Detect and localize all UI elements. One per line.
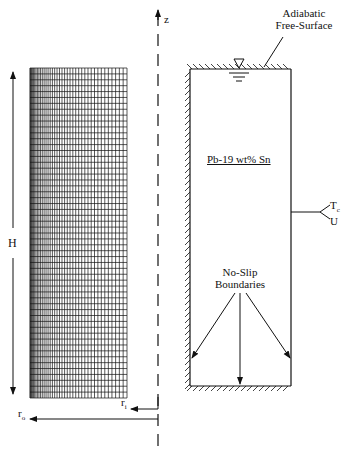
material-label: Pb-19 wt% Sn [207,153,271,165]
inner-radius-label: ri [121,396,127,413]
free-surface-leader [264,37,283,67]
adiabatic-text: Adiabatic [262,7,346,19]
outer-radius-label: ro [18,407,25,424]
cooling-temperature-subscript: c [337,206,340,214]
outer-bc-label: Tc U [330,200,340,227]
wall-hatching [185,64,288,391]
height-label: H [8,237,17,249]
no-slip-boundaries-label: No-Slip Boundaries [205,266,275,290]
heat-transfer-coefficient-symbol: U [330,216,340,227]
mesh-grid [30,68,127,398]
outer-radius-subscript: o [22,414,26,422]
inner-radius-subscript: i [125,403,127,411]
cooling-temperature-symbol: T [330,199,337,211]
z-axis-label: z [164,13,169,25]
free-surface-text: Free-Surface [262,19,346,31]
inner-radius-arrow [131,397,158,409]
no-slip-text: No-Slip [205,266,275,278]
free-surface-symbol [229,59,249,81]
adiabatic-free-surface-label: Adiabatic Free-Surface [262,7,346,31]
outer-boundary-leader [291,205,330,219]
diagram-canvas [0,0,349,453]
boundaries-text: Boundaries [205,278,275,290]
no-slip-arrows [192,293,290,384]
